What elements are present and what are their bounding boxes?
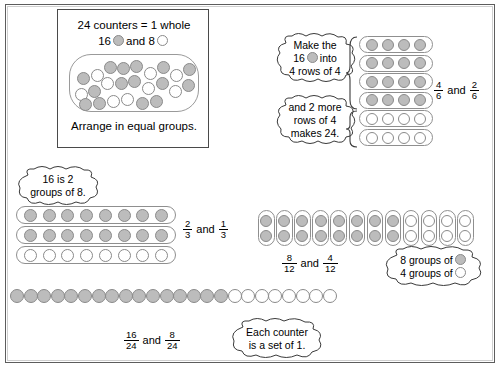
numerator: 2: [470, 80, 479, 90]
gray-counter-icon: [10, 289, 24, 303]
white-counter-icon: [142, 82, 155, 95]
numerator: 16: [124, 330, 139, 340]
counter-column: [403, 210, 420, 246]
intro-line-2: 16and 8: [58, 35, 210, 47]
gray-counter-icon: [455, 254, 466, 265]
gray-counter-icon: [99, 229, 112, 242]
bubble-groups-of: 8 groups of 4 groups of: [381, 246, 487, 288]
bubble-16-is-2-groups: 16 is 2 groups of 8.: [14, 166, 102, 206]
white-counter-icon: [118, 249, 131, 262]
numerator: 1: [219, 219, 228, 229]
gray-counter-icon: [64, 289, 78, 303]
gray-counter-icon: [183, 63, 196, 76]
gray-counter-icon: [387, 230, 399, 242]
conjunction: and: [196, 223, 214, 235]
numerator: 4: [434, 80, 443, 90]
numerator: 4: [326, 253, 335, 263]
gray-counter-icon: [369, 230, 381, 242]
gray-counter-icon: [173, 289, 187, 303]
twentyfourths-strip: [10, 289, 340, 305]
gray-counter-icon: [366, 57, 378, 69]
denominator: 3: [219, 229, 228, 240]
gray-counter-icon: [387, 215, 399, 227]
label-sixteen-twentyfourths: 16 24 and 8 24: [124, 330, 180, 350]
gray-counter-icon: [119, 289, 133, 303]
bubble-groups-of-line-1: 8 groups of: [400, 254, 468, 267]
gray-counter-icon: [150, 95, 163, 108]
gray-counter-icon: [80, 229, 93, 242]
counter-row: [16, 246, 176, 264]
gray-counter-icon: [156, 77, 169, 90]
white-counter-icon: [423, 215, 435, 227]
label-two-thirds: 2 3 and 1 3: [183, 219, 228, 239]
gray-counter-icon: [351, 215, 363, 227]
white-counter-icon: [455, 267, 466, 278]
gray-counter-icon: [128, 75, 141, 88]
gray-counter-icon: [414, 76, 426, 88]
white-counter-icon: [309, 289, 323, 303]
gray-counter-icon: [398, 57, 410, 69]
white-counter-icon: [43, 249, 56, 262]
bubble-make-16-line-2: 16into: [289, 52, 340, 65]
gray-counter-icon: [307, 52, 318, 63]
denominator: 6: [470, 90, 479, 101]
gray-counter-icon: [113, 35, 124, 46]
gray-counter-icon: [51, 289, 65, 303]
gray-counter-icon: [146, 289, 160, 303]
white-counter-icon: [61, 249, 74, 262]
counter-column: [385, 210, 402, 246]
white-counter-icon: [366, 132, 378, 144]
conjunction: and: [447, 84, 465, 96]
gray-counter-icon: [214, 289, 228, 303]
gray-counter-icon: [200, 289, 214, 303]
white-counter-icon: [99, 249, 112, 262]
intro-white-count: and 8: [126, 35, 155, 47]
white-counter-icon: [241, 289, 255, 303]
gray-counter-icon: [43, 229, 56, 242]
gray-counter-icon: [155, 209, 168, 222]
gray-counter-icon: [366, 76, 378, 88]
intro-panel: 24 counters = 1 whole 16and 8 Arrange in…: [57, 9, 209, 148]
numerator: 2: [183, 219, 192, 229]
gray-counter-icon: [398, 76, 410, 88]
white-counter-icon: [398, 113, 410, 125]
gray-groups-text: 8 groups of: [400, 254, 453, 266]
gray-counter-icon: [130, 60, 143, 73]
denominator: 12: [282, 263, 297, 274]
white-counter-icon: [121, 93, 134, 106]
gray-counter-icon: [382, 39, 394, 51]
gray-counter-icon: [382, 57, 394, 69]
white-counter-icon: [382, 113, 394, 125]
gray-counter-icon: [24, 289, 38, 303]
gray-counter-icon: [414, 94, 426, 106]
counter-row: [359, 92, 433, 109]
denominator: 12: [323, 263, 338, 274]
gray-counter-icon: [93, 97, 106, 110]
counter-column: [457, 210, 474, 246]
bubble-16-line-1: 16 is 2: [30, 173, 85, 186]
white-counter-icon: [101, 77, 114, 90]
bubble-and-2-more: and 2 more rows of 4 makes 24.: [272, 95, 358, 145]
white-groups-text: 4 groups of: [400, 267, 453, 279]
gray-counter-icon: [118, 229, 131, 242]
bubble-make-16-number: 16: [293, 52, 305, 64]
intro-caption: Arrange in equal groups.: [58, 120, 210, 132]
gray-counter-icon: [366, 94, 378, 106]
gray-counter-icon: [115, 77, 128, 90]
gray-counter-icon: [92, 289, 106, 303]
bubble-16-is-2-groups-text: 16 is 2 groups of 8.: [20, 173, 95, 199]
fraction-2-3: 2 3: [183, 219, 192, 239]
intro-line-1: 24 counters = 1 whole: [58, 19, 210, 31]
bubble-make-16-into: into: [320, 52, 337, 64]
counter-row: [16, 206, 176, 224]
counter-row: [359, 110, 433, 127]
white-counter-icon: [169, 85, 182, 98]
white-counter-icon: [296, 289, 310, 303]
counter-column: [276, 210, 293, 246]
gray-counter-icon: [366, 39, 378, 51]
counter-column: [258, 210, 275, 246]
bubble-make-16-text: Make the 16into 4 rows of 4: [279, 39, 350, 78]
white-counter-icon: [441, 215, 453, 227]
gray-counter-icon: [79, 98, 92, 111]
fraction-4-12: 4 12: [323, 253, 338, 273]
